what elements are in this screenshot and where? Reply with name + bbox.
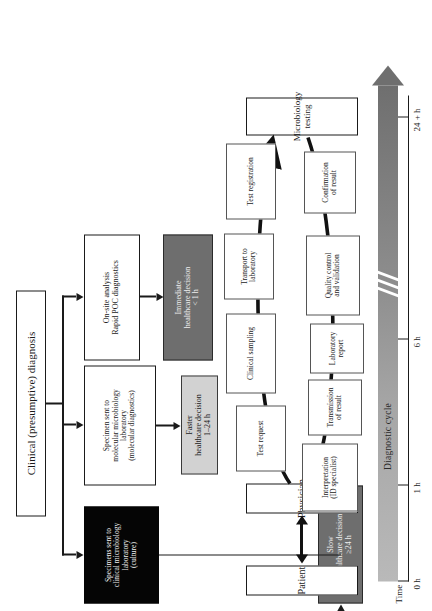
figure-root: Clinical (presumptive) diagnosis On-site…: [0, 0, 432, 611]
poc-to-outcome-line: [140, 295, 156, 297]
clinical-presumptive-diagnosis-label: Clinical (presumptive) diagnosis: [25, 329, 37, 477]
branch-stem-culture: [62, 553, 76, 555]
process-box-on-site-analysis: On-site analysis Rapid POC diagnostics: [84, 234, 140, 360]
branch-arrow-culture: [77, 551, 84, 559]
cycle-step-interpretation-id-specialist: Interpretation (ID specialist): [302, 443, 358, 511]
branch-stem-poc: [62, 295, 76, 297]
clinical-sampling-label: Clinical sampling: [247, 324, 255, 381]
interpretation-line2: (ID specialist): [330, 454, 338, 501]
time-tick-label-0h: 0 h: [412, 578, 422, 589]
time-tick-6h: [398, 338, 409, 339]
transmission-line2: of result: [335, 385, 343, 429]
time-tick-label-6h: 6 h: [412, 336, 422, 347]
diagnostic-cycle-arrow: Diagnostic cycle: [378, 61, 398, 581]
root-stem-line: [46, 402, 63, 404]
time-tick-0h: [398, 580, 409, 581]
cycle-step-clinical-sampling: Clinical sampling: [226, 313, 276, 393]
laboratory-report-line2: report: [337, 329, 345, 366]
culture-lab-line4: (culture): [130, 520, 138, 588]
time-tick-label-1h: 1 h: [412, 482, 422, 493]
root-distribution-line: [62, 296, 64, 556]
quality-control-line2: and validation: [333, 250, 341, 300]
cycle-step-test-registration: Test registration: [226, 143, 276, 219]
process-box-clinical-lab-culture: Specimens sent to clinical microbiology …: [84, 506, 159, 603]
molecular-lab-line4: (molecular diagnostics): [128, 387, 136, 463]
cycle-step-laboratory-report: Laboratory report: [310, 323, 364, 373]
molecular-outcome-arrow: [174, 422, 181, 430]
time-tick-1h: [398, 484, 409, 485]
culture-outcome-arrow: [337, 604, 345, 611]
process-box-molecular-lab: Specimen sent to molecular microbiology …: [84, 365, 156, 485]
clinical-presumptive-diagnosis-box: Clinical (presumptive) diagnosis: [16, 290, 46, 516]
cycle-step-quality-control-and-validation: Quality control and validation: [306, 235, 360, 315]
molecular-outcome-stem: [156, 424, 174, 426]
cycle-step-transport-to-laboratory: Transport to laboratory: [224, 233, 274, 299]
outcome-box-immediate-decision: Immediate healthcare decision < 1 h: [163, 234, 213, 360]
time-axis-caption: Time: [394, 584, 404, 603]
cycle-step-confirmation-of-result: Confirmation of result: [304, 151, 356, 213]
test-request-label: Test request: [257, 418, 265, 458]
branch-arrow-poc: [77, 293, 84, 301]
diagnostic-pathways-panel: Clinical (presumptive) diagnosis On-site…: [0, 0, 218, 611]
outcome-box-faster-decision: Faster healthcare decision 1–24 h: [181, 375, 218, 474]
diagnostic-cycle-panel: Patient Physician Microbiology testing: [222, 0, 432, 611]
diagnostic-cycle-arrow-tip: [372, 65, 404, 85]
cycle-step-transmission-of-result: Transmission of result: [308, 379, 362, 435]
faster-decision-line3: 1–24 h: [204, 392, 213, 458]
branch-arrow-molecular: [77, 421, 84, 429]
transport-line2: laboratory: [249, 246, 257, 287]
time-tick-label-24h: 24 + h: [412, 108, 422, 131]
confirmation-line2: of result: [330, 160, 338, 204]
test-registration-label: Test registration: [247, 155, 255, 207]
branch-stem-molecular: [62, 423, 76, 425]
immediate-decision-line3: < 1 h: [192, 264, 201, 330]
cycle-step-test-request: Test request: [236, 405, 286, 471]
on-site-analysis-line2: Rapid POC diagnostics: [112, 258, 121, 337]
time-tick-24h: [398, 116, 409, 117]
diagnostic-cycle-arrow-label: Diagnostic cycle: [378, 291, 398, 581]
